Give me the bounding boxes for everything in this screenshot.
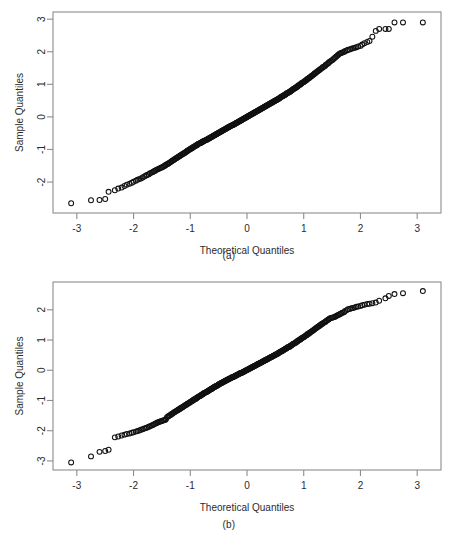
- x-tick-label: 1: [301, 223, 307, 234]
- x-tick-label: -3: [72, 223, 81, 234]
- x-tick-label: -1: [186, 480, 195, 491]
- plot-frame: [53, 12, 441, 213]
- y-axis-title: Sample Quantiles: [14, 337, 25, 416]
- x-tick-label: 3: [414, 480, 420, 491]
- data-point: [401, 291, 406, 296]
- data-points: [69, 289, 426, 465]
- data-point: [103, 197, 108, 202]
- x-tick-label: 2: [358, 223, 364, 234]
- data-point: [116, 434, 121, 439]
- data-point: [106, 189, 111, 194]
- x-tick-label: 0: [244, 223, 250, 234]
- y-tick-label: 0: [37, 114, 48, 120]
- y-axis-title: Sample Quantiles: [14, 73, 25, 152]
- y-tick-label: 3: [37, 16, 48, 22]
- x-tick-label: 2: [358, 480, 364, 491]
- y-tick-label: -2: [37, 177, 48, 186]
- data-point: [420, 289, 425, 294]
- x-tick-label: -2: [129, 223, 138, 234]
- data-point: [89, 454, 94, 459]
- data-point: [392, 20, 397, 25]
- data-point: [97, 449, 102, 454]
- data-point: [401, 20, 406, 25]
- plot-frame: [53, 282, 441, 470]
- x-tick-label: 1: [301, 480, 307, 491]
- data-point: [69, 201, 74, 206]
- caption-a: (a): [0, 250, 458, 261]
- data-point: [97, 198, 102, 203]
- x-tick-label: 0: [244, 480, 250, 491]
- qq-plot-a: -3-2-10123-2-10123Theoretical QuantilesS…: [0, 0, 458, 271]
- data-point: [112, 435, 117, 440]
- qq-plot-figure: -3-2-10123-2-10123Theoretical QuantilesS…: [0, 0, 458, 541]
- x-axis-title: Theoretical Quantiles: [200, 502, 295, 513]
- y-tick-label: -1: [37, 396, 48, 405]
- data-point: [392, 292, 397, 297]
- data-point: [386, 26, 391, 31]
- panel-b: -3-2-10123-3-2-1012Theoretical Quantiles…: [0, 271, 458, 541]
- y-tick-label: 2: [37, 49, 48, 55]
- data-point: [420, 20, 425, 25]
- y-tick-label: 2: [37, 307, 48, 313]
- x-tick-label: -1: [186, 223, 195, 234]
- qq-plot-b: -3-2-10123-3-2-1012Theoretical Quantiles…: [0, 271, 458, 541]
- y-tick-label: 1: [37, 337, 48, 343]
- y-tick-label: 0: [37, 367, 48, 373]
- panel-a: -3-2-10123-2-10123Theoretical QuantilesS…: [0, 0, 458, 271]
- y-tick-label: -2: [37, 426, 48, 435]
- y-tick-label: -3: [37, 456, 48, 465]
- x-tick-label: 3: [414, 223, 420, 234]
- data-point: [69, 460, 74, 465]
- x-tick-label: -3: [72, 480, 81, 491]
- data-point: [89, 198, 94, 203]
- y-tick-label: 1: [37, 81, 48, 87]
- data-points: [69, 20, 426, 206]
- data-point: [370, 34, 375, 39]
- y-tick-label: -1: [37, 145, 48, 154]
- caption-b: (b): [0, 519, 458, 530]
- x-tick-label: -2: [129, 480, 138, 491]
